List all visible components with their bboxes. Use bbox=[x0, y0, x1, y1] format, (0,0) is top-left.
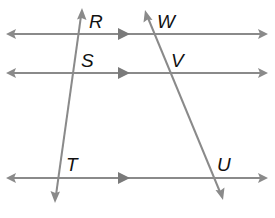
parallel-line-1 bbox=[6, 28, 268, 40]
point-label-t: T bbox=[66, 155, 78, 174]
bottom-arrowhead-icon bbox=[51, 191, 61, 203]
point-label-w: W bbox=[157, 12, 175, 31]
point-label-v: V bbox=[171, 51, 184, 70]
top-arrowhead-icon bbox=[144, 10, 153, 23]
point-label-r: R bbox=[89, 12, 103, 31]
top-arrowhead-icon bbox=[77, 8, 87, 20]
parallel-mark-icon bbox=[118, 172, 130, 184]
bottom-arrowhead-icon bbox=[216, 188, 225, 201]
parallel-line-2 bbox=[6, 67, 268, 79]
transversal-right bbox=[144, 10, 225, 200]
point-label-u: U bbox=[217, 155, 231, 174]
parallel-lines-diagram: R S T W V U bbox=[0, 0, 275, 218]
parallel-mark-icon bbox=[118, 28, 130, 40]
parallel-mark-icon bbox=[118, 67, 130, 79]
diagram-canvas bbox=[0, 0, 275, 218]
point-label-s: S bbox=[81, 51, 94, 70]
